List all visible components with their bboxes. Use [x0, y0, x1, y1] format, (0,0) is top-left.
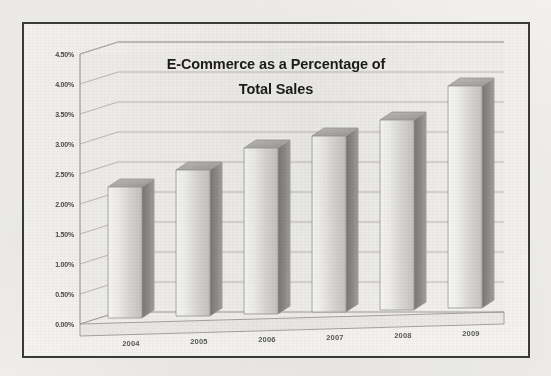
x-tick-label: 2004 [122, 339, 140, 348]
chart-title-line-1: E-Commerce as a Percentage of [167, 56, 386, 72]
bar-chart-svg: 4.50% 4.00% 3.50% 3.00% 2.50% 2.00% 1.50… [24, 24, 528, 356]
bar-2009[interactable] [448, 78, 494, 308]
y-tick-label: 3.50% [55, 111, 75, 118]
bar-2004[interactable] [108, 179, 154, 318]
x-tick-label: 2009 [462, 329, 480, 338]
y-tick-label: 1.50% [55, 231, 75, 238]
y-tick-label: 0.50% [55, 291, 75, 298]
y-tick-label: 3.00% [55, 141, 75, 148]
x-tick-label: 2007 [326, 333, 344, 342]
y-axis-tick-labels: 4.50% 4.00% 3.50% 3.00% 2.50% 2.00% 1.50… [55, 51, 75, 328]
chart-plot-area: 4.50% 4.00% 3.50% 3.00% 2.50% 2.00% 1.50… [24, 24, 528, 356]
y-tick-label: 2.00% [55, 201, 75, 208]
x-tick-label: 2006 [258, 335, 276, 344]
bar-2007[interactable] [312, 128, 358, 312]
y-tick-label: 4.00% [55, 81, 75, 88]
bar-2006[interactable] [244, 140, 290, 314]
x-tick-label: 2008 [394, 331, 412, 340]
chart-outer-border: 4.50% 4.00% 3.50% 3.00% 2.50% 2.00% 1.50… [22, 22, 530, 358]
y-tick-label: 4.50% [55, 51, 75, 58]
bar-2008[interactable] [380, 112, 426, 310]
chart-title-line-2: Total Sales [239, 81, 313, 97]
y-tick-label: 2.50% [55, 171, 75, 178]
x-tick-label: 2005 [190, 337, 208, 346]
y-tick-label: 0.00% [55, 321, 75, 328]
y-tick-label: 1.00% [55, 261, 75, 268]
bar-2005[interactable] [176, 162, 222, 316]
